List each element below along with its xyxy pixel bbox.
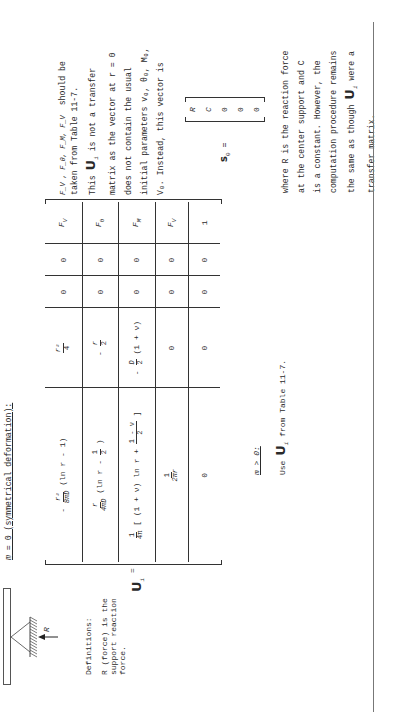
equals-sign: = — [128, 568, 137, 573]
matrix-cell: 0 — [188, 276, 220, 308]
vector-entry: 0 — [249, 107, 265, 112]
paragraph-where: where R is the reaction force at the cen… — [278, 51, 380, 194]
para-line: at the center support and C — [294, 51, 310, 194]
matrix-cell: 0 — [82, 276, 118, 308]
para-line: matrix as the vector at r = 0 — [105, 48, 121, 195]
rotated-page: R Definitions: R (force) is the support … — [0, 0, 393, 720]
para-line: computation procedure remains — [326, 51, 342, 194]
vector-bracket-left — [185, 117, 265, 122]
para-line: the same as though Ui were a — [342, 51, 364, 194]
definitions-line: support reaction — [109, 598, 118, 675]
matrix-row: r4πD (ln r - 12 ) - r2 0 0 Fθ — [82, 202, 118, 562]
matrix-cell: 0 — [118, 244, 155, 276]
force-label: R — [42, 627, 51, 632]
state-vector: R C 0 0 0 — [185, 97, 265, 122]
matrix-row: 14π [ (1 + ν) ln r + 1 - ν2 ] - D2 (1 + … — [118, 202, 155, 562]
matrix-cell: 0 — [155, 244, 188, 276]
matrix-cell: 0 — [45, 276, 82, 308]
para-line: where R is the reaction force — [278, 51, 294, 194]
vector-entry: C — [201, 107, 217, 112]
matrix-cell: FV — [155, 202, 188, 244]
matrix-row: - r²8πD (ln r - 1) r²4 0 0 FV — [45, 202, 82, 562]
matrix-cell: FV — [45, 202, 82, 244]
matrix-cell: 0 — [155, 308, 188, 388]
para-line: does not contain the usual — [121, 48, 137, 195]
matrix-cell: - D2 (1 + ν) — [118, 308, 155, 388]
matrix-cell: r4πD (ln r - 12 ) — [82, 388, 118, 562]
state-vector-label: s0 = — [218, 143, 232, 162]
matrix-cell: 0 — [82, 244, 118, 276]
matrix-cell: 0 — [188, 244, 220, 276]
matrix-cell: - r2 — [82, 308, 118, 388]
para-line: is a constant. However, the — [310, 51, 326, 194]
definitions-line: R (force) is the — [100, 598, 109, 675]
pin-support-icon — [8, 580, 58, 690]
para-line: transfer matrix. — [364, 51, 380, 194]
para-line: V₀. Instead, this vector is — [153, 48, 169, 195]
matrix-row: 12πr 0 0 0 FV — [155, 202, 188, 562]
definitions-title: Definitions: — [84, 598, 93, 675]
paragraph-transfer-note: F_V , F_θ, F_M, F_V should be taken from… — [55, 48, 169, 195]
vector-bracket-right — [185, 97, 265, 102]
vector-entry: R — [185, 107, 201, 112]
matrix-cell: - r²8πD (ln r - 1) — [45, 388, 82, 562]
matrix-cell: 0 — [45, 244, 82, 276]
matrix-cell: 0 — [188, 308, 220, 388]
matrix-cell: 0 — [188, 388, 220, 562]
matrix-cell: Fθ — [82, 202, 118, 244]
matrix-cell: r²4 — [45, 308, 82, 388]
matrix-cell: 0 — [118, 276, 155, 308]
matrix-cell: 1 — [188, 202, 220, 244]
vector-entry: 0 — [233, 107, 249, 112]
matrix-cell: 12πr — [155, 388, 188, 562]
para-line: This Ui is not a transfer — [83, 48, 105, 195]
matrix-row: 0 0 0 0 1 — [188, 202, 220, 562]
case2-heading: m > 0: — [252, 446, 261, 475]
matrix-cell: 14π [ (1 + ν) ln r + 1 - ν2 ] — [118, 388, 155, 562]
page-bottom-rule — [373, 22, 374, 712]
transfer-matrix: - r²8πD (ln r - 1) r²4 0 0 FV r4πD (ln r… — [45, 202, 220, 562]
matrix-subscript: i — [139, 578, 146, 582]
case-heading: m = 0 (symmetrical deformation): — [4, 403, 13, 560]
definitions-line: force. — [118, 598, 127, 675]
matrix-cell: FM — [118, 202, 155, 244]
matrix-label: Ui = — [128, 568, 146, 592]
matrix-cell: 0 — [155, 276, 188, 308]
matrix-symbol: U — [129, 581, 144, 592]
case2-text: Use Ui from Table 11-7. — [273, 360, 290, 475]
para-line: initial parameters v₀, θ₀, M₀, — [137, 48, 153, 195]
definitions-block: Definitions: R (force) is the support re… — [84, 598, 127, 675]
vector-entry: 0 — [217, 107, 233, 112]
